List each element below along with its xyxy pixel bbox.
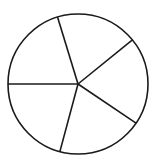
pie-chart-svg <box>0 0 156 167</box>
pie-chart <box>0 0 156 167</box>
